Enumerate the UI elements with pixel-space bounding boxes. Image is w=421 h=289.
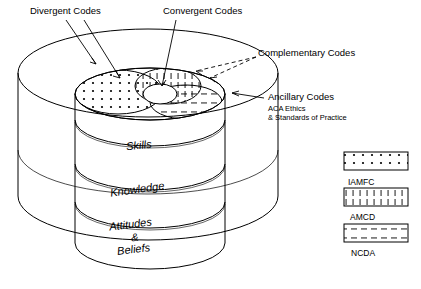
legend-label-ncda: NCDA: [351, 249, 375, 259]
diagram-canvas: [0, 0, 421, 289]
label-ancillary-codes: Ancillary Codes: [268, 92, 334, 103]
legend-label-iamfc: IAMFC: [348, 178, 374, 188]
label-divergent-codes: Divergent Codes: [30, 6, 101, 17]
label-convergent-codes: Convergent Codes: [163, 6, 242, 17]
label-ancillary-sub2: & Standards of Practice: [268, 114, 347, 123]
legend-label-amcd: AMCD: [350, 213, 375, 223]
legend-swatches: [344, 152, 408, 242]
label-complementary-codes: Complementary Codes: [258, 48, 355, 59]
